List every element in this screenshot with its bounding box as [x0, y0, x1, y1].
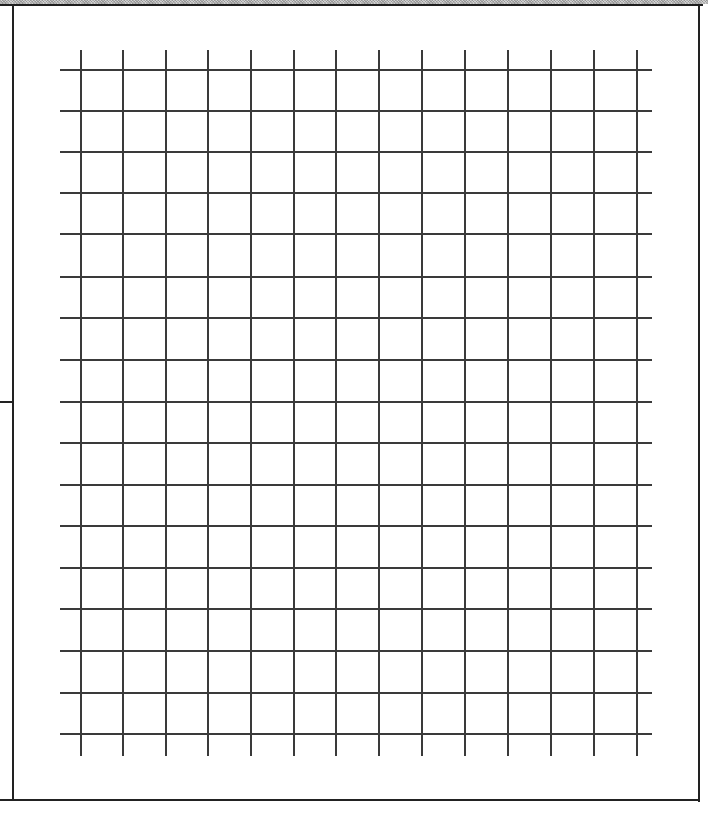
- grid-lines: [0, 0, 708, 824]
